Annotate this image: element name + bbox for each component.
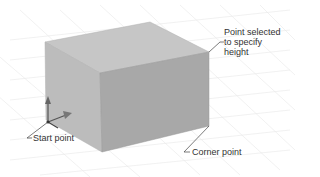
height-point-label: Point selected to specify height (224, 27, 294, 57)
corner-point-label: Corner point (192, 147, 242, 157)
height-point-line-1: Point selected (224, 27, 294, 37)
height-point-line-2: to specify (224, 37, 294, 47)
start-point-label: Start point (33, 133, 74, 143)
height-point-line-3: height (224, 47, 294, 57)
